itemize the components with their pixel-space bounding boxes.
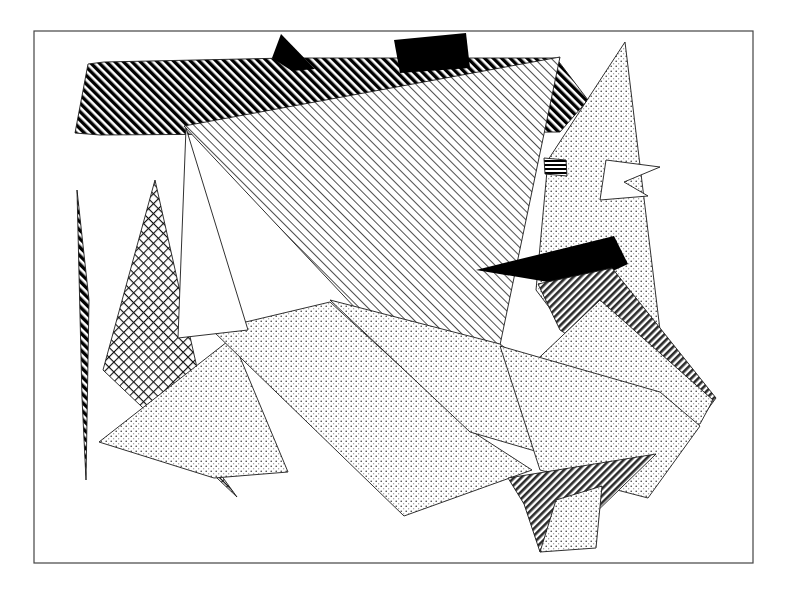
upper-right-black-quad	[394, 33, 470, 73]
mid-right-horizontal-stripe-sliver	[544, 158, 567, 176]
artwork-canvas	[0, 0, 792, 595]
abstract-geometry-figure	[0, 0, 792, 595]
